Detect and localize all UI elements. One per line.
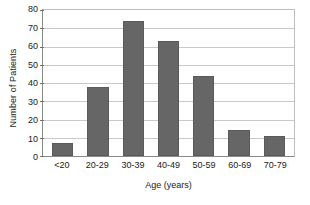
y-axis-tick-label: 10 bbox=[18, 135, 38, 144]
bar-slot bbox=[45, 10, 80, 156]
y-axis-tick-label: 50 bbox=[18, 61, 38, 70]
y-axis-tick-label: 0 bbox=[18, 153, 38, 162]
x-axis-tick-label: <20 bbox=[44, 160, 80, 171]
bar-slot bbox=[116, 10, 151, 156]
x-axis-tick-label: 50-59 bbox=[186, 160, 222, 171]
y-axis-tick-label: 60 bbox=[18, 42, 38, 51]
bar[interactable] bbox=[228, 130, 249, 156]
bar[interactable] bbox=[87, 87, 108, 156]
bar[interactable] bbox=[123, 21, 144, 156]
bar[interactable] bbox=[264, 136, 285, 156]
bar[interactable] bbox=[158, 41, 179, 156]
bar[interactable] bbox=[193, 76, 214, 156]
bar[interactable] bbox=[52, 143, 73, 156]
x-axis-tick-label: 30-39 bbox=[115, 160, 151, 171]
bar-slot bbox=[80, 10, 115, 156]
x-axis-tick-labels: <2020-2930-3940-4950-5960-6970-79 bbox=[42, 160, 295, 171]
y-axis-tick-label: 30 bbox=[18, 98, 38, 107]
x-axis-tick-label: 40-49 bbox=[151, 160, 187, 171]
bars-layer bbox=[43, 10, 294, 156]
bar-slot bbox=[151, 10, 186, 156]
x-axis-title: Age (years) bbox=[42, 180, 295, 191]
y-axis-tickmark bbox=[40, 156, 44, 157]
plot-area bbox=[42, 9, 295, 157]
y-axis-tick-labels: 01020304050607080 bbox=[18, 9, 38, 157]
y-axis-tick-label: 20 bbox=[18, 116, 38, 125]
bar-slot bbox=[257, 10, 292, 156]
x-axis-tick-label: 20-29 bbox=[80, 160, 116, 171]
y-axis-tick-label: 80 bbox=[18, 5, 38, 14]
y-axis-tick-label: 40 bbox=[18, 79, 38, 88]
bar-chart-figure: Number of Patients 01020304050607080 <20… bbox=[0, 0, 310, 205]
bar-slot bbox=[221, 10, 256, 156]
x-axis-tick-label: 60-69 bbox=[222, 160, 258, 171]
y-axis-tick-label: 70 bbox=[18, 24, 38, 33]
bar-slot bbox=[186, 10, 221, 156]
x-axis-tick-label: 70-79 bbox=[257, 160, 293, 171]
